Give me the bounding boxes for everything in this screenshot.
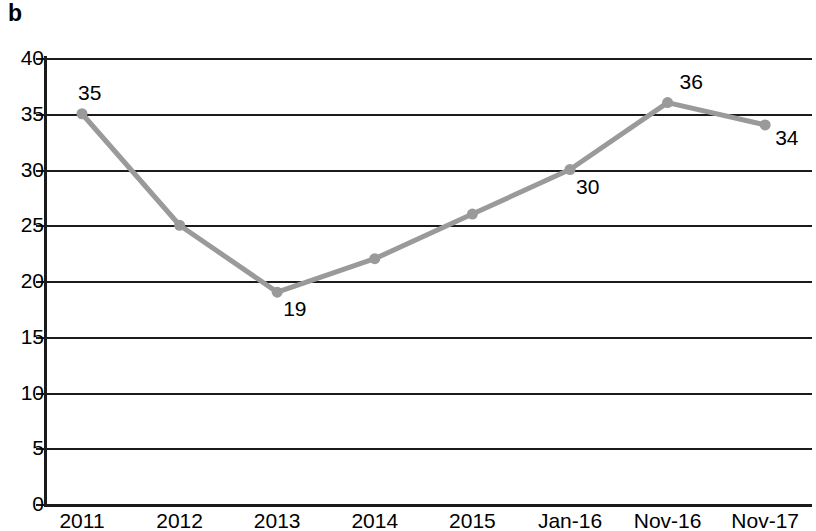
data-label: 30 — [576, 176, 599, 197]
x-tick-label: Nov-17 — [731, 504, 799, 531]
x-tick-label: 2015 — [449, 504, 496, 531]
x-tick-label: 2011 — [59, 504, 104, 531]
x-tick-label: Nov-16 — [634, 504, 702, 531]
x-tick-label: Jan-16 — [538, 504, 602, 531]
chart-container: b 0510152025303540 3519303634 2011201220… — [0, 0, 816, 531]
data-label: 36 — [680, 71, 703, 92]
series-line — [82, 103, 765, 293]
x-tick-label: 2014 — [351, 504, 398, 531]
data-label: 34 — [775, 127, 798, 148]
data-label: 19 — [283, 298, 306, 319]
data-point — [662, 97, 673, 108]
x-tick-label: 2013 — [254, 504, 301, 531]
data-point — [369, 253, 380, 264]
x-tick-label: 2012 — [156, 504, 203, 531]
data-point — [760, 119, 771, 130]
data-point — [272, 287, 283, 298]
data-point — [174, 220, 185, 231]
data-point — [77, 108, 88, 119]
data-point — [565, 164, 576, 175]
data-label: 35 — [78, 82, 101, 103]
data-point — [467, 209, 478, 220]
